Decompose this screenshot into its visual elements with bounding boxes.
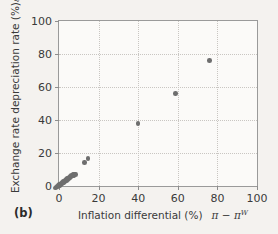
gridline-vertical	[178, 21, 179, 186]
data-point	[73, 172, 78, 177]
data-point	[136, 121, 141, 126]
x-tick-label: 60	[171, 192, 185, 205]
x-tick-label: 40	[131, 192, 145, 205]
y-tick-label: 60	[38, 81, 52, 94]
pi-differential-symbol: π − πW	[212, 209, 249, 221]
y-tick-mark	[55, 87, 59, 88]
epsilon-symbol: ε	[10, 0, 21, 2]
y-tick-label: 40	[38, 114, 52, 127]
gridline-vertical	[138, 21, 139, 186]
y-axis-title: Exchange rate depreciation rate (%)ε	[9, 0, 21, 193]
data-point	[207, 58, 212, 63]
y-tick-label: 80	[38, 48, 52, 61]
x-axis-title-text: Inflation differential (%)	[78, 209, 203, 221]
x-tick-label: 0	[56, 192, 63, 205]
gridline-horizontal	[59, 120, 257, 121]
x-tick-mark	[99, 186, 100, 190]
x-tick-mark	[257, 186, 258, 190]
y-tick-mark	[55, 21, 59, 22]
pi-world-symbol: π	[234, 209, 241, 221]
y-tick-mark	[55, 153, 59, 154]
x-tick-label: 80	[210, 192, 224, 205]
gridline-horizontal	[59, 87, 257, 88]
data-point	[82, 160, 87, 165]
pi-symbol: π	[212, 209, 219, 221]
plot-area: 020406080100 020406080100	[58, 20, 258, 187]
x-tick-label: 20	[92, 192, 106, 205]
x-axis-title: Inflation differential (%)π − πW	[58, 208, 268, 221]
data-point	[173, 91, 178, 96]
gridline-horizontal	[59, 54, 257, 55]
panel-label: (b)	[14, 206, 33, 220]
x-tick-mark	[138, 186, 139, 190]
y-tick-mark	[55, 54, 59, 55]
y-tick-label: 20	[38, 147, 52, 160]
data-point	[86, 156, 91, 161]
gridline-vertical	[217, 21, 218, 186]
gridline-horizontal	[59, 153, 257, 154]
y-tick-label: 0	[45, 180, 52, 193]
gridline-vertical	[99, 21, 100, 186]
scatter-chart-figure: Exchange rate depreciation rate (%)ε 020…	[0, 0, 278, 234]
x-tick-mark	[217, 186, 218, 190]
y-tick-mark	[55, 120, 59, 121]
superscript-w: W	[241, 208, 248, 216]
y-tick-label: 100	[31, 15, 52, 28]
y-axis-title-container: Exchange rate depreciation rate (%)ε	[6, 0, 24, 190]
y-axis-title-text: Exchange rate depreciation rate (%)	[9, 2, 21, 193]
x-tick-mark	[178, 186, 179, 190]
x-tick-label: 100	[247, 192, 268, 205]
minus-symbol: −	[222, 209, 231, 221]
